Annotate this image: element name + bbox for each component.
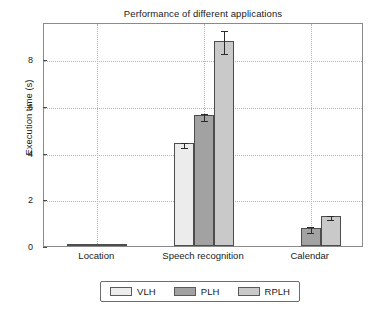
y-tick-mark bbox=[43, 107, 47, 108]
gridline-horizontal bbox=[44, 108, 362, 109]
legend-swatch-vlh bbox=[110, 287, 132, 296]
bar-rplh-location bbox=[107, 244, 127, 246]
y-tick-label: 6 bbox=[13, 102, 33, 112]
legend-label-vlh: VLH bbox=[137, 286, 155, 297]
plot-area bbox=[43, 23, 363, 247]
error-bar-cap-lower bbox=[307, 233, 314, 234]
y-tick-mark bbox=[43, 60, 47, 61]
gridline-vertical bbox=[311, 24, 312, 246]
error-bar-cap-lower bbox=[221, 54, 228, 55]
x-tick-label-location: Location bbox=[78, 250, 114, 261]
error-bar-cap-upper bbox=[327, 216, 334, 217]
legend-entry-plh[interactable]: PLH bbox=[174, 286, 219, 297]
bar-vlh-speech-recognition bbox=[174, 143, 194, 246]
chart-title: Performance of different applications bbox=[43, 8, 363, 19]
legend-label-rplh: RPLH bbox=[265, 286, 290, 297]
error-bar-cap-upper bbox=[181, 143, 188, 144]
y-tick-label: 2 bbox=[13, 195, 33, 205]
legend-label-plh: PLH bbox=[201, 286, 219, 297]
y-tick-mark bbox=[43, 154, 47, 155]
x-tick-label-calendar: Calendar bbox=[290, 250, 329, 261]
x-tick-label-speech-recognition: Speech recognition bbox=[162, 250, 243, 261]
gridline-vertical bbox=[97, 24, 98, 246]
y-tick-label: 8 bbox=[13, 55, 33, 65]
y-tick-mark bbox=[43, 200, 47, 201]
error-bar-cap-lower bbox=[327, 220, 334, 221]
error-bar-cap-upper bbox=[307, 227, 314, 228]
bar-rplh-speech-recognition bbox=[214, 41, 234, 246]
y-tick-label: 0 bbox=[13, 242, 33, 252]
error-bar-line bbox=[224, 31, 225, 54]
gridline-horizontal bbox=[44, 61, 362, 62]
legend-entry-rplh[interactable]: RPLH bbox=[238, 286, 290, 297]
bar-vlh-location bbox=[67, 244, 87, 246]
error-bar-cap-lower bbox=[201, 121, 208, 122]
plot-inner bbox=[44, 24, 362, 246]
y-tick-label: 4 bbox=[13, 149, 33, 159]
bar-plh-location bbox=[87, 244, 107, 246]
chart-legend: VLHPLHRPLH bbox=[100, 281, 300, 302]
figure-canvas: Performance of different applications Ex… bbox=[0, 0, 381, 312]
error-bar-cap-upper bbox=[221, 31, 228, 32]
bar-plh-speech-recognition bbox=[194, 115, 214, 246]
y-tick-mark bbox=[43, 247, 47, 248]
legend-swatch-plh bbox=[174, 287, 196, 296]
error-bar-cap-lower bbox=[181, 148, 188, 149]
legend-entry-vlh[interactable]: VLH bbox=[110, 286, 155, 297]
error-bar-cap-upper bbox=[201, 114, 208, 115]
legend-swatch-rplh bbox=[238, 287, 260, 296]
